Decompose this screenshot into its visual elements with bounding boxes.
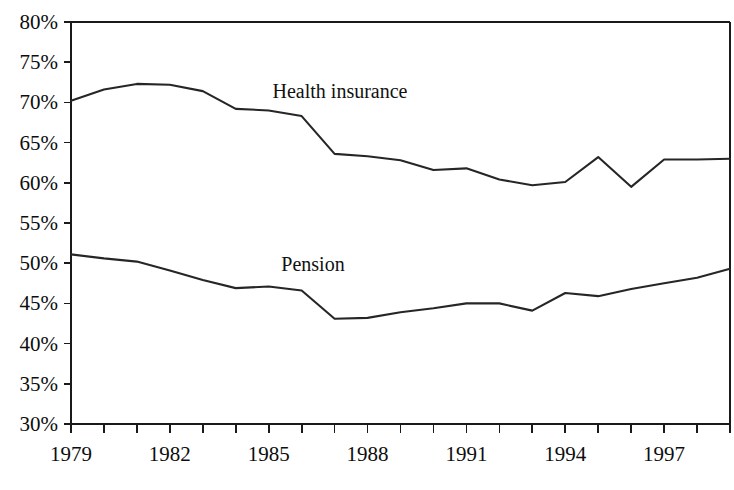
y-tick-label: 80% (20, 10, 59, 34)
y-tick-label: 45% (20, 291, 59, 315)
y-tick-label: 50% (20, 251, 59, 275)
y-tick-label: 75% (20, 50, 59, 74)
y-tick-label: 35% (20, 372, 59, 396)
line-chart: 30%35%40%45%50%55%60%65%70%75%80% 197919… (0, 0, 734, 490)
y-tick-label: 40% (20, 332, 59, 356)
series-line-pension (71, 254, 730, 318)
chart-container: 30%35%40%45%50%55%60%65%70%75%80% 197919… (0, 0, 734, 490)
y-tick-label: 65% (20, 131, 59, 155)
x-axis-tick-labels: 1979198219851988199119941997 (50, 442, 685, 466)
x-tick-label: 1985 (248, 442, 290, 466)
y-axis-ticks (64, 22, 71, 424)
x-tick-label: 1997 (643, 442, 685, 466)
x-tick-label: 1988 (347, 442, 389, 466)
y-tick-label: 70% (20, 90, 59, 114)
y-tick-label: 30% (20, 412, 59, 436)
x-tick-label: 1991 (445, 442, 487, 466)
y-tick-label: 60% (20, 171, 59, 195)
y-axis-tick-labels: 30%35%40%45%50%55%60%65%70%75%80% (20, 10, 59, 436)
series-label-pension: Pension (281, 253, 344, 275)
x-tick-label: 1994 (544, 442, 587, 466)
data-series-group (71, 84, 730, 319)
x-axis-ticks (71, 424, 730, 433)
series-label-health-insurance: Health insurance (273, 80, 408, 102)
x-tick-label: 1982 (149, 442, 191, 466)
x-tick-label: 1979 (50, 442, 92, 466)
y-tick-label: 55% (20, 211, 59, 235)
